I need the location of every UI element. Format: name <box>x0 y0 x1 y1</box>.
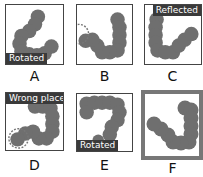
panel-b[interactable] <box>76 4 133 65</box>
rotated-tag: Rotated <box>6 53 47 64</box>
bead-chain-shape <box>145 94 199 156</box>
reflected-tag: Reflected <box>153 5 201 16</box>
rotated-tag: Rotated <box>77 140 118 151</box>
panel-label-b: B <box>76 68 133 84</box>
panel-c[interactable]: Reflected <box>144 4 202 65</box>
panel-a[interactable]: Rotated <box>5 4 64 65</box>
panel-label-f: F <box>144 160 201 176</box>
panel-label-c: C <box>144 68 201 84</box>
panel-e[interactable]: Rotated <box>76 93 133 152</box>
panel-f[interactable] <box>141 90 203 160</box>
wrong-place-tag: Wrong place <box>6 93 63 104</box>
panel-label-e: E <box>76 157 133 173</box>
panel-label-a: A <box>6 68 63 84</box>
bead-chain-shape <box>77 5 132 64</box>
panel-label-d: D <box>6 157 63 173</box>
panel-d[interactable]: Wrong place <box>5 92 64 151</box>
